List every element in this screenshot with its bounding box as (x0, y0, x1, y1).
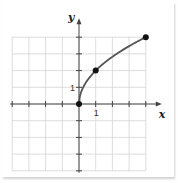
data-point (143, 34, 149, 40)
x-axis-label: x (158, 108, 166, 121)
x-tick-label: 1 (94, 108, 99, 118)
data-point (76, 101, 82, 107)
data-point (93, 68, 99, 74)
x-axis-arrow-icon (156, 102, 162, 107)
y-axis-label: y (67, 11, 76, 24)
y-tick-label: 1 (70, 83, 75, 93)
y-axis-arrow-icon (77, 18, 82, 24)
function-graph: x y 1 1 (0, 0, 178, 183)
